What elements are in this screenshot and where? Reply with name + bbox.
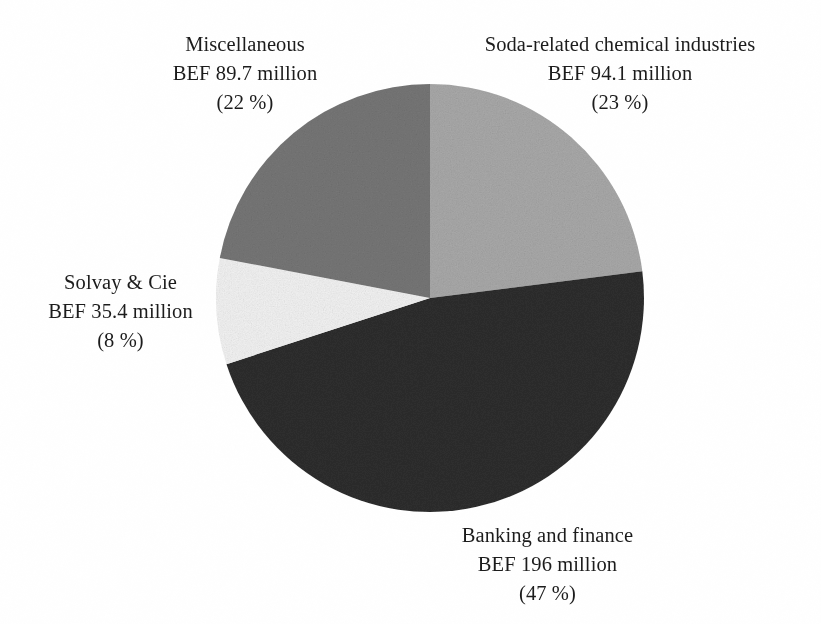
label-miscellaneous-percent: (22 %) <box>120 88 370 117</box>
label-soda-related-value: BEF 94.1 million <box>455 59 785 88</box>
label-solvay-cie-value: BEF 35.4 million <box>8 297 233 326</box>
pie-chart-figure: Miscellaneous BEF 89.7 million (22 %) So… <box>0 0 821 624</box>
label-miscellaneous-name: Miscellaneous <box>120 30 370 59</box>
label-banking-finance-name: Banking and finance <box>415 521 680 550</box>
pie-chart-graphic <box>215 83 645 513</box>
label-soda-related-percent: (23 %) <box>455 88 785 117</box>
label-banking-finance: Banking and finance BEF 196 million (47 … <box>415 521 680 608</box>
label-miscellaneous-value: BEF 89.7 million <box>120 59 370 88</box>
label-banking-finance-percent: (47 %) <box>415 579 680 608</box>
label-banking-finance-value: BEF 196 million <box>415 550 680 579</box>
pie-svg <box>215 83 645 513</box>
label-miscellaneous: Miscellaneous BEF 89.7 million (22 %) <box>120 30 370 117</box>
label-soda-related: Soda-related chemical industries BEF 94.… <box>455 30 785 117</box>
label-soda-related-name: Soda-related chemical industries <box>455 30 785 59</box>
label-solvay-cie-percent: (8 %) <box>8 326 233 355</box>
label-solvay-cie-name: Solvay & Cie <box>8 268 233 297</box>
label-solvay-cie: Solvay & Cie BEF 35.4 million (8 %) <box>8 268 233 355</box>
